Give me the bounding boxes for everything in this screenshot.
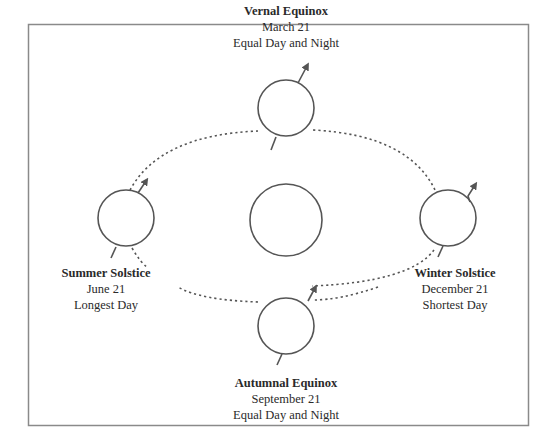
season-name: Autumnal Equinox — [206, 375, 366, 391]
label-summer-solstice: Summer Solstice June 21 Longest Day — [36, 265, 176, 313]
season-description: Shortest Day — [385, 297, 525, 313]
season-name: Vernal Equinox — [206, 3, 366, 19]
axis-arrow-icon — [298, 66, 307, 83]
season-description: Longest Day — [36, 297, 176, 313]
earth-winter — [420, 185, 476, 257]
axis-arrow-icon — [308, 288, 315, 301]
axis-tail — [271, 137, 276, 150]
axis-tail — [111, 247, 116, 258]
label-vernal-equinox: Vernal Equinox March 21 Equal Day and Ni… — [206, 3, 366, 51]
earth-summer — [98, 181, 154, 258]
axis-arrow-icon — [138, 181, 146, 193]
season-description: Equal Day and Night — [206, 407, 366, 423]
season-description: Equal Day and Night — [206, 35, 366, 51]
axis-tail — [438, 246, 443, 257]
earth-vernal — [258, 66, 314, 150]
label-autumnal-equinox: Autumnal Equinox September 21 Equal Day … — [206, 375, 366, 423]
sun — [250, 184, 322, 256]
season-date: June 21 — [36, 281, 176, 297]
label-winter-solstice: Winter Solstice December 21 Shortest Day — [385, 265, 525, 313]
earth-autumnal — [258, 288, 315, 365]
axis-arrow-icon — [468, 185, 475, 202]
season-date: September 21 — [206, 391, 366, 407]
axis-tail — [277, 354, 282, 365]
season-name: Winter Solstice — [385, 265, 525, 281]
season-date: December 21 — [385, 281, 525, 297]
season-date: March 21 — [206, 19, 366, 35]
season-name: Summer Solstice — [36, 265, 176, 281]
